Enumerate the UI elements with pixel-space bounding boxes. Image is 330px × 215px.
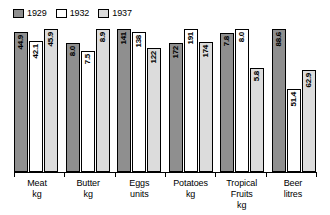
category-unit: kg bbox=[168, 189, 214, 200]
bar-eggs-1937[interactable]: 122 bbox=[147, 48, 161, 172]
bar-value-label: 174 bbox=[202, 45, 210, 57]
bar-value-label: 62.9 bbox=[305, 73, 313, 87]
bar-meat-1932[interactable]: 42.1 bbox=[29, 41, 43, 172]
bar-potatoes-1929[interactable]: 172 bbox=[169, 43, 183, 172]
category-label-meat: Meatkg bbox=[14, 178, 60, 211]
bar-group-butter: 8.07.58.9 bbox=[66, 24, 110, 172]
bar-value-label: 42.1 bbox=[32, 44, 40, 58]
category-unit: litres bbox=[270, 189, 316, 200]
bar-butter-1937[interactable]: 8.9 bbox=[96, 29, 110, 172]
bar-potatoes-1937[interactable]: 174 bbox=[199, 42, 213, 172]
bar-value-label: 51.4 bbox=[290, 92, 298, 106]
legend-item-1929: 1929 bbox=[13, 9, 47, 18]
bar-group-tropical-fruits: 7.88.05.8 bbox=[220, 24, 264, 172]
axis-tick bbox=[115, 172, 116, 177]
category-name: Beer bbox=[270, 178, 316, 189]
category-name: Butter bbox=[65, 178, 111, 189]
bar-group-meat: 44.942.145.9 bbox=[14, 24, 58, 172]
bar-tropical-fruits-1929[interactable]: 7.8 bbox=[220, 33, 234, 172]
legend-label-1929: 1929 bbox=[27, 9, 47, 18]
axis-tick bbox=[64, 172, 65, 177]
category-unit: kg bbox=[65, 189, 111, 200]
bar-beer-1932[interactable]: 51.4 bbox=[287, 89, 301, 172]
category-label-butter: Butterkg bbox=[65, 178, 111, 211]
category-name: Meat bbox=[14, 178, 60, 189]
bar-eggs-1932[interactable]: 138 bbox=[132, 32, 146, 172]
legend-label-1937: 1937 bbox=[112, 9, 132, 18]
axis-tick bbox=[266, 172, 267, 177]
bar-butter-1932[interactable]: 7.5 bbox=[81, 51, 95, 172]
x-axis-ticks bbox=[14, 172, 316, 177]
bar-eggs-1929[interactable]: 141 bbox=[117, 29, 131, 172]
bar-value-label: 8.0 bbox=[69, 46, 77, 56]
bar-butter-1929[interactable]: 8.0 bbox=[66, 43, 80, 172]
category-name: Potatoes bbox=[168, 178, 214, 189]
bar-value-label: 8.9 bbox=[99, 32, 107, 42]
bar-value-label: 44.9 bbox=[17, 35, 25, 49]
category-label-beer: Beerlitres bbox=[270, 178, 316, 211]
bar-meat-1929[interactable]: 44.9 bbox=[14, 32, 28, 172]
legend-item-1932: 1932 bbox=[56, 9, 90, 18]
chart-legend: 1929 1932 1937 bbox=[13, 6, 132, 20]
bar-value-label: 138 bbox=[135, 35, 143, 47]
bar-group-eggs: 141138122 bbox=[117, 24, 161, 172]
bar-group-beer: 88.651.462.9 bbox=[272, 24, 316, 172]
legend-swatch-1932 bbox=[56, 9, 67, 18]
category-unit: kg bbox=[14, 189, 60, 200]
bar-value-label: 172 bbox=[172, 46, 180, 58]
legend-swatch-1929 bbox=[13, 9, 24, 18]
category-labels: MeatkgButterkgEggsunitsPotatoeskgTropica… bbox=[14, 178, 316, 211]
legend-item-1937: 1937 bbox=[98, 9, 132, 18]
axis-tick bbox=[14, 172, 15, 177]
bar-group-potatoes: 172191174 bbox=[169, 24, 213, 172]
category-label-potatoes: Potatoeskg bbox=[168, 178, 214, 211]
category-label-tropical-fruits: Tropical Fruitskg bbox=[219, 178, 265, 211]
axis-tick bbox=[316, 172, 317, 177]
bar-value-label: 122 bbox=[150, 51, 158, 63]
bar-value-label: 88.6 bbox=[275, 32, 283, 46]
bar-value-label: 7.5 bbox=[84, 54, 92, 64]
bar-value-label: 45.9 bbox=[47, 32, 55, 46]
legend-label-1932: 1932 bbox=[70, 9, 90, 18]
category-name: Eggs bbox=[116, 178, 162, 189]
bar-value-label: 8.0 bbox=[238, 32, 246, 42]
bar-tropical-fruits-1932[interactable]: 8.0 bbox=[235, 29, 249, 172]
legend-swatch-1937 bbox=[98, 9, 109, 18]
category-unit: units bbox=[116, 189, 162, 200]
category-unit: kg bbox=[219, 200, 265, 211]
bar-beer-1929[interactable]: 88.6 bbox=[272, 29, 286, 172]
bar-meat-1937[interactable]: 45.9 bbox=[44, 29, 58, 172]
axis-tick bbox=[215, 172, 216, 177]
bar-value-label: 5.8 bbox=[253, 71, 261, 81]
category-name: Tropical Fruits bbox=[219, 178, 265, 200]
bar-potatoes-1932[interactable]: 191 bbox=[184, 29, 198, 172]
bar-beer-1937[interactable]: 62.9 bbox=[302, 70, 316, 172]
bar-value-label: 141 bbox=[120, 32, 128, 44]
bar-value-label: 191 bbox=[187, 32, 195, 44]
category-label-eggs: Eggsunits bbox=[116, 178, 162, 211]
bar-value-label: 7.8 bbox=[223, 36, 231, 46]
axis-tick bbox=[165, 172, 166, 177]
bar-tropical-fruits-1937[interactable]: 5.8 bbox=[250, 68, 264, 172]
plot-area: 44.942.145.98.07.58.91411381221721911747… bbox=[14, 24, 316, 172]
grouped-bar-chart: 1929 1932 1937 44.942.145.98.07.58.91411… bbox=[0, 0, 330, 215]
